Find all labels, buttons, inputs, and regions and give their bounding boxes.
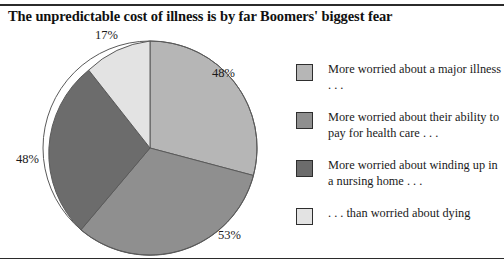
page-title: The unpredictable cost of illness is by … [8,8,488,25]
slice-label-health-care: 53% [218,228,241,243]
legend-item-nursing-home[interactable]: More worried about winding up in a nursi… [296,158,502,189]
slice-label-major-illness: 48% [212,66,235,81]
legend-item-label: . . . than worried about dying [328,206,502,222]
legend-item-major-illness[interactable]: More worried about a major illness . . . [296,62,502,93]
pie-plot-area: 17% 48% 53% 48% [0,28,290,260]
legend-swatch-icon [296,208,313,225]
slice-label-dying: 17% [95,28,118,43]
legend-swatch-icon [296,160,313,177]
pie-svg [0,28,290,260]
bottom-divider-rule [0,258,504,259]
legend-swatch-icon [296,64,313,81]
legend-item-label: More worried about their ability to pay … [328,110,502,141]
legend-item-worried-about-dying[interactable]: . . . than worried about dying [296,206,502,236]
legend-item-pay-for-health-care[interactable]: More worried about their ability to pay … [296,110,502,141]
legend: More worried about a major illness . . .… [296,62,502,253]
legend-swatch-icon [296,112,313,129]
top-divider-rule [0,4,504,6]
pie-chart-figure: The unpredictable cost of illness is by … [0,0,504,265]
slice-label-nursing-home: 48% [16,152,39,167]
legend-item-label: More worried about a major illness . . . [328,62,502,93]
legend-item-label: More worried about winding up in a nursi… [328,158,502,189]
